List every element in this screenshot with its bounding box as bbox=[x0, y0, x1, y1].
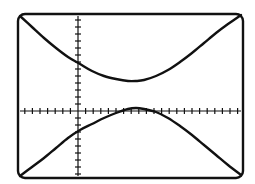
screenshot-root bbox=[0, 0, 255, 184]
graph-plot bbox=[0, 0, 255, 184]
